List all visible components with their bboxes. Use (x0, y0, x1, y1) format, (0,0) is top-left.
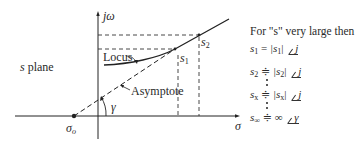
sigma-axis-arrow-icon (235, 114, 240, 117)
s2-sub: 2 (206, 41, 210, 50)
angle-symbol: j (289, 43, 298, 55)
asymptote-label: Asymptote (131, 85, 184, 97)
eq-lhs-sub: x (254, 93, 258, 102)
eq-angle: γ (294, 111, 298, 123)
eq-mag-end: | (284, 65, 286, 77)
eq-lhs-sub: 2 (254, 70, 258, 79)
eq-mag-end: | (281, 42, 283, 54)
equation-row: s∞ ≑ ∞ γ (250, 112, 299, 125)
eq-mag-end: | (284, 88, 286, 100)
s2-point (198, 34, 201, 37)
angle-symbol: j (292, 66, 301, 78)
eq-op: ≑ (261, 88, 270, 100)
sigma-axis-label: σ (235, 120, 241, 132)
jw-axis-label: jω (103, 10, 115, 22)
eq-angle: j (298, 65, 301, 77)
eq-lhs-sub: ∞ (254, 116, 260, 125)
eq-angle: j (295, 42, 298, 54)
eq-angle: j (298, 88, 301, 100)
equation-row: s1 = |s1| j (250, 43, 298, 56)
jw-axis-arrow-icon (96, 11, 99, 16)
sigma-o-sub: o (72, 127, 76, 136)
plane-label: s plane (20, 61, 54, 73)
eq-mag: ∞ (275, 111, 283, 123)
equations-heading: For "s" very large then (250, 26, 354, 38)
s1-sub: 1 (185, 57, 189, 66)
locus-label: Locus (103, 51, 132, 63)
gamma-label: γ (111, 101, 116, 113)
eq-op: = (261, 42, 267, 54)
asymptote-arrowhead-icon (120, 85, 124, 88)
eq-lhs-sub: 1 (254, 47, 258, 56)
plane-label-text: plane (25, 60, 54, 74)
s1-point (174, 48, 177, 51)
s1-label: s1 (180, 52, 189, 66)
eq-op: ≑ (263, 111, 272, 123)
s2-label: s2 (201, 36, 210, 50)
equation-row: s2 ≑ |s2| j (250, 66, 301, 79)
eq-op: ≑ (261, 65, 270, 77)
sigma-o-label: σo (66, 122, 76, 136)
sigma-o-point (72, 114, 76, 118)
angle-symbol: j (292, 89, 301, 101)
equation-row: sx ≑ |sx| j (250, 89, 301, 102)
angle-symbol: γ (288, 112, 298, 124)
